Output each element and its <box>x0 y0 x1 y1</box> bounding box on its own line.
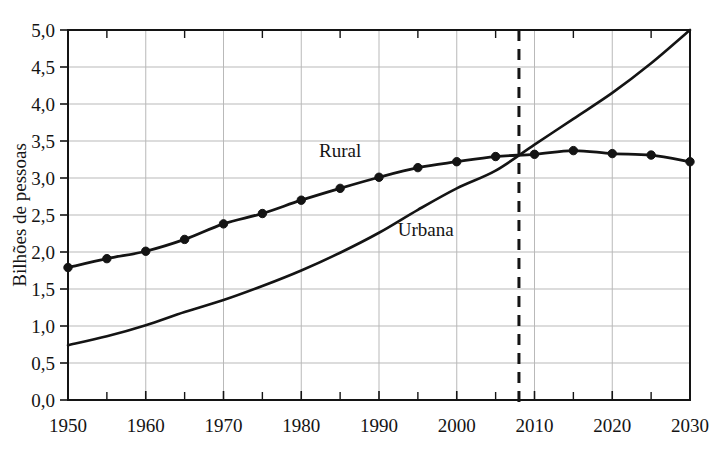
y-axis-tick-label: 0,5 <box>31 353 55 374</box>
data-point-marker <box>103 254 111 262</box>
y-axis-tick-label: 0,0 <box>31 390 55 411</box>
data-point-marker <box>491 152 499 160</box>
x-axis-tick-label: 2020 <box>593 415 631 436</box>
data-point-marker <box>453 158 461 166</box>
x-axis-tick-label: 2000 <box>438 415 476 436</box>
y-axis-tick-label: 1,0 <box>31 316 55 337</box>
data-point-marker <box>414 163 422 171</box>
y-axis-tick-label: 4,5 <box>31 57 55 78</box>
data-point-marker <box>180 235 188 243</box>
data-point-marker <box>686 158 694 166</box>
chart-background <box>0 0 715 454</box>
data-point-marker <box>258 209 266 217</box>
x-axis-tick-label: 2030 <box>671 415 709 436</box>
data-point-marker <box>530 150 538 158</box>
y-axis-tick-label: 4,0 <box>31 94 55 115</box>
y-axis-tick-label: 2,5 <box>31 205 55 226</box>
series-label-rural: Rural <box>319 140 361 161</box>
y-axis-tick-label: 2,0 <box>31 242 55 263</box>
x-axis-tick-label: 1950 <box>49 415 87 436</box>
y-axis-tick-label: 3,5 <box>31 131 55 152</box>
data-point-marker <box>142 247 150 255</box>
y-axis-tick-label: 1,5 <box>31 279 55 300</box>
data-point-marker <box>64 263 72 271</box>
data-point-marker <box>608 149 616 157</box>
y-axis-tick-label: 3,0 <box>31 168 55 189</box>
data-point-marker <box>219 220 227 228</box>
data-point-marker <box>647 151 655 159</box>
data-point-marker <box>297 196 305 204</box>
x-axis-tick-label: 1970 <box>205 415 243 436</box>
x-axis-tick-label: 1980 <box>282 415 320 436</box>
line-chart: 195019601970198019902000201020202030 0,0… <box>0 0 715 454</box>
x-axis-tick-label: 2010 <box>516 415 554 436</box>
x-axis-tick-labels: 195019601970198019902000201020202030 <box>49 415 709 436</box>
data-point-marker <box>336 184 344 192</box>
series-label-urbana: Urbana <box>398 219 454 240</box>
data-point-marker <box>375 173 383 181</box>
x-axis-tick-label: 1960 <box>127 415 165 436</box>
y-axis-title: Bilhões de pessoas <box>9 143 30 287</box>
y-axis-tick-label: 5,0 <box>31 20 55 41</box>
x-axis-tick-label: 1990 <box>360 415 398 436</box>
chart-figure: 195019601970198019902000201020202030 0,0… <box>0 0 715 454</box>
data-point-marker <box>569 146 577 154</box>
